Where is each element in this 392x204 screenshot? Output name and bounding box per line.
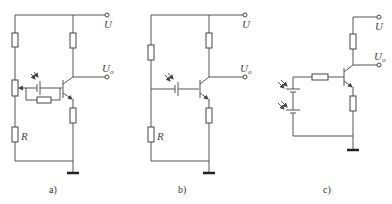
base-resistor-c xyxy=(312,74,328,80)
supply-terminal-c xyxy=(377,15,381,19)
circuit-diagram: U R Uo xyxy=(0,0,392,204)
output-label-a: Uo xyxy=(102,62,114,76)
light-arrow-icon xyxy=(165,75,170,81)
supply-terminal-b xyxy=(243,13,247,17)
emitter-resistor-b xyxy=(206,108,212,123)
potentiometer-a xyxy=(12,80,18,96)
output-terminal-b xyxy=(243,75,247,79)
caption-a: a) xyxy=(49,184,57,196)
resistor-top-a xyxy=(12,33,18,47)
resistor-top-b xyxy=(148,45,154,60)
output-terminal-c xyxy=(377,63,381,67)
resistor-label-a: R xyxy=(20,130,28,142)
light-arrow-icon xyxy=(278,103,284,109)
panel-a: U R Uo xyxy=(12,13,114,196)
resistor-label-b: R xyxy=(156,130,164,142)
emitter-resistor-c xyxy=(350,96,356,111)
collector-resistor-b xyxy=(206,33,212,48)
output-label-c: Uo xyxy=(374,50,386,64)
resistor-R-a xyxy=(12,127,18,142)
panel-c: U Uo c) xyxy=(278,15,386,196)
output-label-b: Uo xyxy=(240,62,252,76)
output-terminal-a xyxy=(105,75,109,79)
supply-label-a: U xyxy=(104,18,113,30)
feedback-resistor-a xyxy=(37,97,51,103)
emitter-resistor-a xyxy=(70,108,76,123)
caption-c: c) xyxy=(323,184,331,196)
light-arrow-icon xyxy=(278,82,284,88)
collector-resistor-c xyxy=(350,34,356,49)
light-arrow-icon xyxy=(31,74,35,79)
resistor-R-b xyxy=(148,127,154,142)
panel-b: U R Uo b) xyxy=(148,13,252,196)
supply-terminal-a xyxy=(105,13,109,17)
collector-resistor-a xyxy=(70,33,76,48)
supply-label-c: U xyxy=(375,20,384,32)
supply-label-b: U xyxy=(242,18,251,30)
caption-b: b) xyxy=(178,184,186,196)
